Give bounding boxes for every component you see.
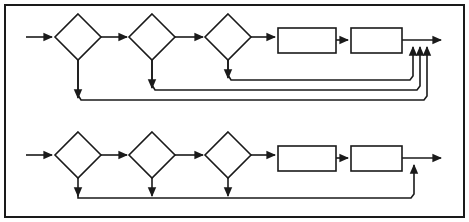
top-process-1[interactable]	[278, 28, 336, 53]
flowchart-svg	[0, 0, 469, 222]
diagram-canvas	[0, 0, 469, 222]
bottom-process-1[interactable]	[278, 146, 336, 171]
top-process-2[interactable]	[351, 28, 402, 53]
bottom-process-2[interactable]	[351, 146, 402, 171]
